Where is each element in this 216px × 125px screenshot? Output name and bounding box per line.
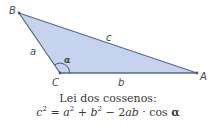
law-of-cosines-formula: c2 = a2 + b2 − 2ab · cos α [0, 106, 216, 119]
vertex-b-dot [18, 12, 21, 15]
formula-eq: = [47, 106, 63, 119]
formula-alpha: α [171, 106, 179, 119]
angle-label-alpha: α [64, 55, 70, 65]
triangle-abc [19, 13, 197, 73]
vertex-c-dot [59, 72, 62, 75]
formula-minus: − 2 [102, 106, 125, 119]
formula-cos: · cos [139, 106, 171, 119]
vertex-a-dot [196, 72, 199, 75]
vertex-label-b: B [9, 5, 16, 16]
side-label-b: b [118, 77, 124, 88]
side-label-c: c [106, 32, 112, 43]
vertex-label-a: A [199, 71, 207, 82]
formula-ab: ab [125, 106, 139, 119]
triangle-diagram: B C A a b c α [0, 0, 216, 92]
law-of-cosines-title: Lei dos cossenos: [0, 92, 216, 105]
formula-plus: + [74, 106, 90, 119]
side-label-a: a [30, 46, 36, 57]
vertex-label-c: C [52, 77, 59, 88]
